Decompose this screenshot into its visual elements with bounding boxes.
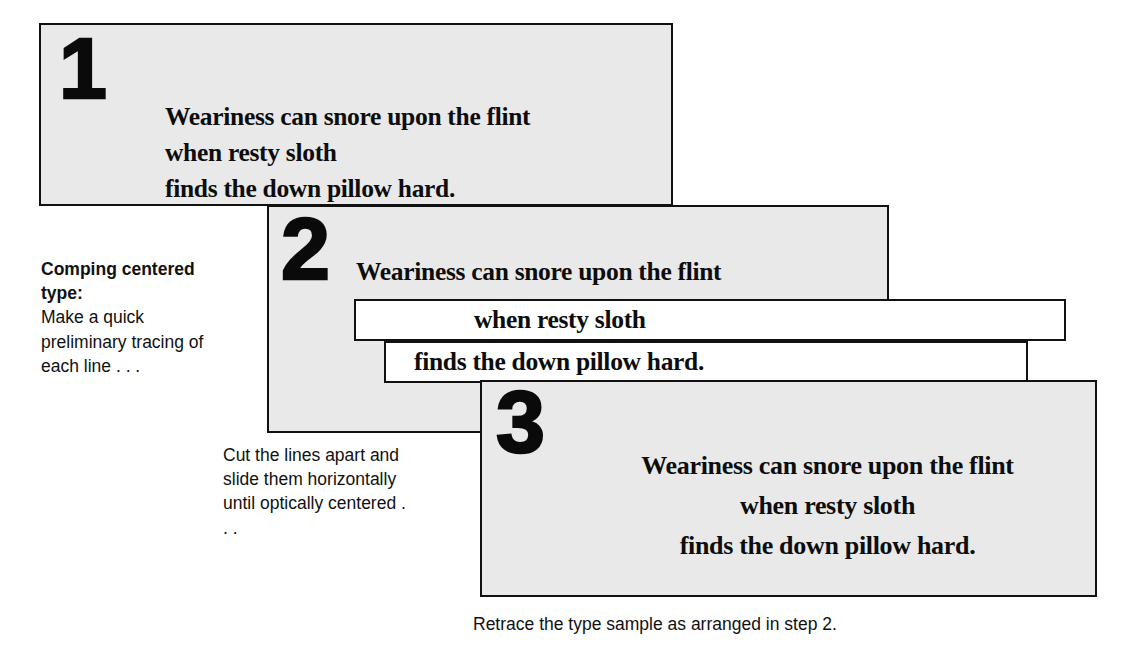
step-1-caption: Comping centered type: Make a quick prel… [41, 257, 231, 378]
step-3-line-1: Weariness can snore upon the flint [578, 446, 1077, 486]
step-1-type-block: Weariness can snore upon the flint when … [165, 99, 530, 207]
step-3-panel: 3 Weariness can snore upon the flint whe… [480, 380, 1097, 597]
step-3-caption-body: Retrace the type sample as arranged in s… [473, 612, 1073, 636]
step-1-caption-body: Make a quick preliminary tracing of each… [41, 305, 231, 378]
step-2-strip-3[interactable]: finds the down pillow hard. [384, 341, 1028, 383]
step-1-numeral: 1 [59, 33, 103, 104]
step-2-caption-body: Cut the lines apart and slide them horiz… [223, 443, 413, 540]
figure-canvas: 1 Weariness can snore upon the flint whe… [0, 0, 1127, 659]
step-1-caption-heading: Comping centered type: [41, 257, 231, 305]
step-1-line-2: when resty sloth [165, 135, 530, 171]
step-2-strip-2[interactable]: when resty sloth [354, 299, 1066, 341]
step-2-line-2: when resty sloth [474, 301, 1064, 339]
step-2-line-1: Weariness can snore upon the flint [356, 254, 721, 290]
step-1-panel: 1 Weariness can snore upon the flint whe… [39, 23, 673, 206]
step-3-line-3: finds the down pillow hard. [578, 526, 1077, 566]
step-2-caption: Cut the lines apart and slide them horiz… [223, 443, 413, 540]
step-2-numeral: 2 [281, 213, 326, 285]
step-1-line-3: finds the down pillow hard. [165, 171, 530, 207]
step-1-line-1: Weariness can snore upon the flint [165, 99, 530, 135]
step-3-line-2: when resty sloth [578, 486, 1077, 526]
step-3-caption: Retrace the type sample as arranged in s… [473, 612, 1073, 636]
step-3-type-block: Weariness can snore upon the flint when … [482, 446, 1095, 566]
